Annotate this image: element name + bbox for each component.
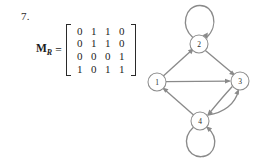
problem-block: 7. MR = 0 1 1 0 0 1 1 0 0 0 0 1: [0, 0, 140, 161]
matrix-cell: 0: [87, 50, 101, 63]
matrix-cell: 1: [115, 63, 129, 76]
node-3-label: 3: [238, 77, 242, 86]
arrowhead-icon: [225, 79, 231, 84]
node-2[interactable]: 2: [190, 35, 208, 53]
matrix-cell: 0: [73, 37, 87, 50]
node-1-label: 1: [155, 78, 159, 87]
matrix-cell: 1: [73, 63, 87, 76]
matrix-cell: 0: [115, 25, 129, 38]
matrix-expression: MR = 0 1 1 0 0 1 1 0 0 0 0 1 1: [36, 24, 136, 76]
node-4-label: 4: [198, 117, 202, 126]
matrix-cell: 1: [101, 63, 115, 76]
matrix-cell: 1: [101, 25, 115, 38]
directed-graph: 1 2 3 4: [140, 0, 272, 161]
matrix-cell: 1: [101, 37, 115, 50]
matrix-grid: 0 1 1 0 0 1 1 0 0 0 0 1 1 0 1 1: [71, 24, 131, 76]
problem-number: 7.: [21, 10, 30, 22]
matrix-variable-subscript: R: [47, 49, 52, 58]
matrix-cell: 1: [87, 25, 101, 38]
matrix-cell: 0: [73, 50, 87, 63]
matrix-cell: 0: [87, 63, 101, 76]
matrix-cell: 0: [73, 25, 87, 38]
equals-sign: =: [55, 44, 62, 56]
edge-1-to-2: [163, 48, 194, 76]
node-1[interactable]: 1: [148, 73, 166, 91]
node-2-label: 2: [197, 40, 201, 49]
matrix-cell: 1: [87, 37, 101, 50]
matrix-variable-label: MR: [36, 42, 52, 57]
matrix-variable-name: M: [36, 42, 47, 54]
matrix-cell: 0: [101, 50, 115, 63]
node-3[interactable]: 3: [231, 72, 249, 90]
edge-4-to-3: [208, 89, 239, 115]
matrix-cell: 0: [115, 37, 129, 50]
matrix-right-bracket: [131, 24, 136, 76]
node-4[interactable]: 4: [191, 112, 209, 130]
edge-2-to-3: [205, 50, 235, 75]
edge-4-self-loop: [187, 126, 215, 157]
directed-graph-block: 1 2 3 4: [140, 0, 272, 161]
edge-4-to-1: [162, 87, 193, 115]
matrix: 0 1 1 0 0 1 1 0 0 0 0 1 1 0 1 1: [66, 24, 136, 76]
matrix-cell: 1: [115, 50, 129, 63]
worksheet-page: 7. MR = 0 1 1 0 0 1 1 0 0 0 0 1: [0, 0, 272, 161]
edge-2-self-loop: [185, 5, 213, 38]
edge-1-to-3: [166, 79, 231, 84]
